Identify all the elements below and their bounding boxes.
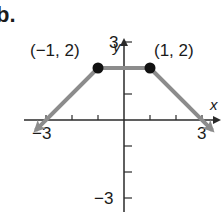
point-dot [145, 63, 156, 74]
y-tick-label: −3 [94, 189, 113, 208]
point-dot [93, 63, 104, 74]
point-label: (1, 2) [154, 41, 194, 60]
y-tick-label: 3 [109, 33, 118, 52]
x-axis-label: x [209, 96, 218, 113]
point-label: (−1, 2) [30, 41, 80, 60]
graph-canvas: b. xy3−33−3 (−1, 2)(1, 2) [0, 0, 221, 212]
curve-left-ray [36, 68, 98, 130]
problem-label: b. [0, 2, 16, 27]
curve-right-ray [150, 68, 212, 130]
x-tick-label: 3 [197, 124, 206, 143]
